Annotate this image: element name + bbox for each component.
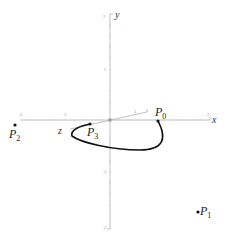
x-tick-label: -2 (19, 112, 23, 117)
y-tick-label: -2 (103, 225, 107, 230)
x-tick-label: 2 (207, 112, 210, 117)
bezier-curve (72, 121, 163, 150)
z-tick-label: 2 (146, 108, 149, 113)
x-axis-label: x (211, 114, 217, 125)
coordinate-diagram: -2 -1 2 x 2 1 -1 -2 y 1 2 z (0, 0, 226, 236)
origin-marker (109, 119, 112, 122)
point-p2: P2 (8, 123, 20, 143)
y-tick-label: -1 (103, 169, 107, 174)
point-p3: P3 (86, 122, 98, 141)
point-p1: P1 (196, 204, 211, 220)
point-dot (156, 119, 159, 122)
z-tick-label: 1 (134, 109, 137, 114)
point-label: P2 (8, 127, 20, 143)
x-tick-label: -1 (63, 112, 67, 117)
point-label: P3 (86, 125, 98, 141)
y-axis-label: y (114, 9, 120, 20)
point-label: P0 (154, 105, 166, 121)
z-axis: 1 2 z (57, 108, 149, 136)
y-tick-label: 2 (103, 14, 106, 19)
z-axis-label: z (57, 125, 62, 136)
y-tick-label: 1 (104, 67, 107, 72)
point-label: P1 (199, 204, 211, 220)
